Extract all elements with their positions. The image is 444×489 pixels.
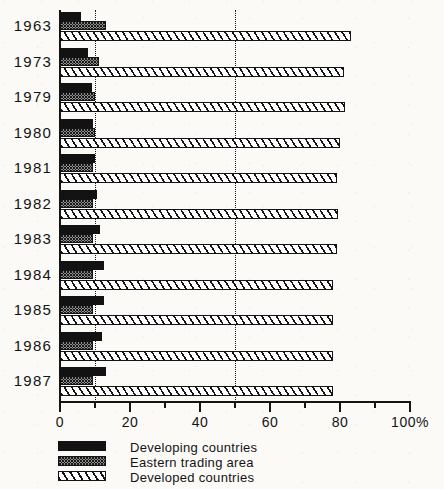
- legend-label-developing: Developing countries: [130, 440, 257, 455]
- legend-swatch-developed-icon: [58, 471, 106, 481]
- legend-item-developing: Developing countries: [58, 440, 388, 454]
- bar-row: 1987: [0, 365, 444, 400]
- y-axis-label-1963: 1963: [0, 17, 52, 34]
- bar-eastern-1963: [60, 21, 106, 30]
- bar-eastern-1979: [60, 92, 95, 101]
- x-tick-minor-30: [164, 403, 166, 408]
- bar-eastern-1973: [60, 57, 99, 66]
- bar-eastern-1984: [60, 270, 93, 279]
- bar-developed-1987: [60, 386, 333, 396]
- legend-swatch-developing-icon: [58, 441, 106, 451]
- bar-developed-1983: [60, 244, 337, 254]
- y-axis-label-1973: 1973: [0, 53, 52, 70]
- bar-developing-1963: [60, 12, 81, 21]
- bar-row: 1985: [0, 294, 444, 329]
- y-axis-label-1983: 1983: [0, 230, 52, 247]
- bar-developed-1984: [60, 280, 333, 290]
- bar-developed-1985: [60, 315, 333, 325]
- bar-developed-1973: [60, 67, 344, 77]
- y-axis-label-1979: 1979: [0, 88, 52, 105]
- y-axis-label-1987: 1987: [0, 372, 52, 389]
- bar-developed-1986: [60, 351, 333, 361]
- bar-developed-1981: [60, 173, 337, 183]
- x-tick-minor-90: [374, 403, 376, 408]
- x-tick-major-0: [59, 403, 61, 412]
- bar-developing-1973: [60, 48, 88, 57]
- x-tick-label-40: 40: [192, 414, 209, 430]
- bar-row: 1979: [0, 81, 444, 116]
- x-tick-major-60: [269, 403, 271, 412]
- bar-developing-1982: [60, 190, 97, 199]
- legend-item-eastern: Eastern trading area: [58, 455, 388, 469]
- x-tick-label-80: 80: [332, 414, 349, 430]
- bar-developed-1979: [60, 102, 345, 112]
- x-tick-major-80: [339, 403, 341, 412]
- legend-item-developed: Developed countries: [58, 470, 388, 484]
- bar-eastern-1986: [60, 341, 93, 350]
- y-axis-label-1985: 1985: [0, 301, 52, 318]
- bar-row: 1986: [0, 330, 444, 365]
- bar-developing-1987: [60, 367, 106, 376]
- x-tick-minor-50: [234, 403, 236, 408]
- bar-eastern-1987: [60, 376, 93, 385]
- bar-row: 1973: [0, 46, 444, 81]
- bar-developing-1983: [60, 225, 100, 234]
- x-tick-minor-70: [304, 403, 306, 408]
- y-axis-label-1981: 1981: [0, 159, 52, 176]
- bar-row: 1982: [0, 188, 444, 223]
- bar-developing-1985: [60, 296, 104, 305]
- y-axis-label-1982: 1982: [0, 195, 52, 212]
- legend-swatch-eastern-icon: [58, 456, 106, 466]
- x-tick-label-60: 60: [262, 414, 279, 430]
- legend-label-developed: Developed countries: [130, 470, 254, 485]
- bar-row: 1984: [0, 259, 444, 294]
- x-tick-label-100: 100%: [391, 414, 429, 430]
- y-axis-label-1980: 1980: [0, 124, 52, 141]
- bar-row: 1963: [0, 10, 444, 45]
- bar-developing-1979: [60, 83, 92, 92]
- bar-developed-1980: [60, 138, 340, 148]
- bar-eastern-1983: [60, 234, 93, 243]
- legend: Developing countries Eastern trading are…: [58, 440, 388, 485]
- bar-eastern-1980: [60, 128, 95, 137]
- bar-developed-1963: [60, 31, 351, 41]
- y-axis-label-1986: 1986: [0, 337, 52, 354]
- x-tick-major-20: [129, 403, 131, 412]
- x-tick-label-0: 0: [56, 414, 64, 430]
- bar-developing-1981: [60, 154, 95, 163]
- bar-chart: 020406080100% 19631973197919801981198219…: [0, 0, 444, 489]
- bar-row: 1983: [0, 223, 444, 258]
- bar-eastern-1981: [60, 163, 93, 172]
- bar-developing-1986: [60, 332, 102, 341]
- bar-eastern-1985: [60, 305, 93, 314]
- bar-developing-1980: [60, 119, 93, 128]
- x-tick-major-40: [199, 403, 201, 412]
- x-tick-major-100: [409, 403, 411, 412]
- x-tick-label-20: 20: [122, 414, 139, 430]
- x-tick-minor-10: [94, 403, 96, 408]
- bar-row: 1980: [0, 117, 444, 152]
- legend-label-eastern: Eastern trading area: [130, 455, 254, 470]
- bar-row: 1981: [0, 152, 444, 187]
- bar-developed-1982: [60, 209, 338, 219]
- y-axis-label-1984: 1984: [0, 266, 52, 283]
- bar-developing-1984: [60, 261, 104, 270]
- bar-eastern-1982: [60, 199, 93, 208]
